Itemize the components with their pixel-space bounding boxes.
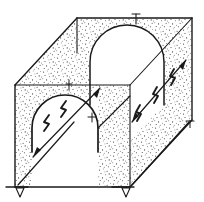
support-arrow-center	[112, 186, 134, 197]
arch-tunnel-block-drawing	[0, 0, 204, 202]
support-arrow-left	[6, 186, 28, 197]
figure-container: Stippled arch tunnel block isometric lin…	[0, 0, 204, 202]
